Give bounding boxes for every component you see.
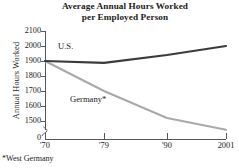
chart-footnote: *West Germany: [2, 154, 54, 163]
chart-figure: Average Annual Hours Worked per Employed…: [0, 0, 239, 168]
series-label-us: U.S.: [58, 42, 73, 51]
series-plot-area: [0, 0, 239, 168]
series-label-germany: Germany*: [70, 95, 106, 104]
